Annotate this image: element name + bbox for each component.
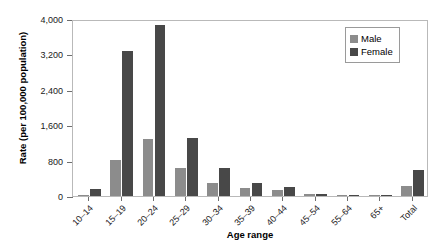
bar-male-65+ bbox=[369, 195, 380, 196]
x-tick-mark bbox=[121, 197, 122, 201]
x-tick-mark bbox=[185, 197, 186, 201]
x-tick-mark bbox=[153, 197, 154, 201]
y-tick-label: 4,000 bbox=[17, 15, 63, 25]
chart-legend: Male Female bbox=[345, 27, 400, 63]
x-tick-mark bbox=[218, 197, 219, 201]
bar-male-5564 bbox=[337, 195, 348, 196]
legend-item-male[interactable]: Male bbox=[350, 32, 393, 45]
legend-swatch-male-icon bbox=[350, 35, 358, 43]
bar-chart-figure: Rate (per 100,000 population) 08001,6002… bbox=[0, 0, 444, 251]
y-tick-label: 800 bbox=[17, 157, 63, 167]
bar-male-4554 bbox=[304, 194, 315, 196]
y-tick-mark bbox=[67, 197, 73, 198]
y-tick-label: 2,400 bbox=[17, 86, 63, 96]
bar-female-3539 bbox=[252, 183, 263, 196]
bar-male-3034 bbox=[207, 183, 218, 196]
bar-female-2024 bbox=[155, 25, 166, 196]
legend-label-female: Female bbox=[361, 45, 393, 58]
bar-female-4554 bbox=[316, 194, 327, 196]
legend-swatch-female-icon bbox=[350, 48, 358, 56]
bar-male-Total bbox=[401, 186, 412, 196]
bar-female-4044 bbox=[284, 187, 295, 196]
bar-female-3034 bbox=[219, 168, 230, 196]
x-tick-mark bbox=[88, 197, 89, 201]
x-tick-mark bbox=[412, 197, 413, 201]
legend-label-male: Male bbox=[361, 32, 382, 45]
bar-male-3539 bbox=[240, 188, 251, 196]
x-tick-mark bbox=[379, 197, 380, 201]
bar-male-4044 bbox=[272, 190, 283, 196]
bar-female-2529 bbox=[187, 138, 198, 196]
x-tick-mark bbox=[315, 197, 316, 201]
bar-female-Total bbox=[413, 170, 424, 196]
y-axis-title: Rate (per 100,000 population) bbox=[14, 0, 32, 198]
y-tick-label: 3,200 bbox=[17, 50, 63, 60]
bar-male-1014 bbox=[78, 195, 89, 196]
bar-male-2024 bbox=[143, 139, 154, 196]
x-tick-mark bbox=[347, 197, 348, 201]
x-tick-mark bbox=[250, 197, 251, 201]
bar-male-1519 bbox=[110, 160, 121, 196]
bar-female-65+ bbox=[381, 195, 392, 196]
y-tick-label: 0 bbox=[17, 192, 63, 202]
x-tick-mark bbox=[282, 197, 283, 201]
bar-female-1014 bbox=[90, 189, 101, 196]
x-axis-title: Age range bbox=[72, 229, 428, 240]
legend-item-female[interactable]: Female bbox=[350, 45, 393, 58]
bar-female-5564 bbox=[349, 195, 360, 196]
y-tick-label: 1,600 bbox=[17, 121, 63, 131]
bar-female-1519 bbox=[122, 51, 133, 196]
bar-male-2529 bbox=[175, 168, 186, 196]
